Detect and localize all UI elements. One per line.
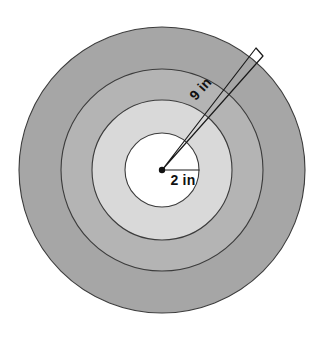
target-diagram-figure: 9 in 2 in [0,0,324,341]
center-point-dot [159,167,165,173]
target-diagram-svg: 9 in 2 in [0,0,324,341]
inner-radius-label: 2 in [171,172,196,188]
